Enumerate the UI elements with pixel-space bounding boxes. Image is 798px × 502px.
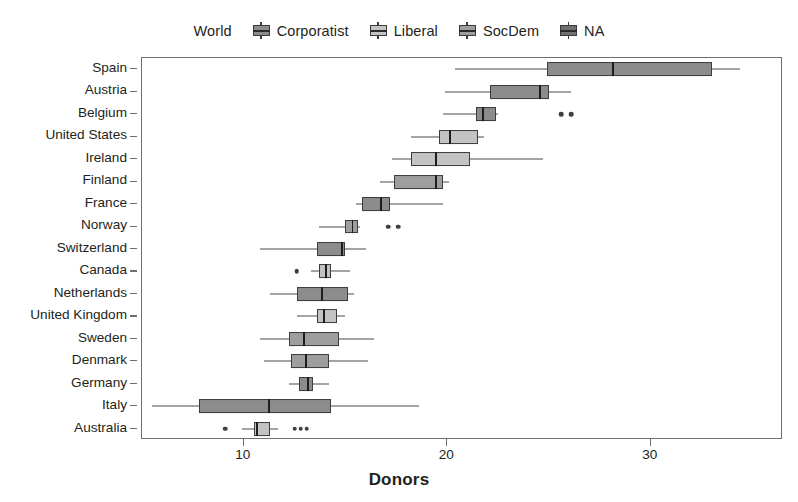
boxplot-row <box>142 58 781 80</box>
y-axis: SpainAustriaBelgiumUnited StatesIrelandF… <box>0 57 137 439</box>
median-line <box>612 62 614 76</box>
outlier-point <box>292 426 297 431</box>
legend-median <box>370 30 387 32</box>
box-germany <box>299 377 313 391</box>
boxplot-row <box>142 395 781 417</box>
outlier-point <box>294 269 299 274</box>
y-tick-label-finland: Finland <box>82 169 127 191</box>
median-line <box>380 197 382 211</box>
legend-entry-liberal[interactable]: Liberal <box>369 22 438 39</box>
x-tick-label-10: 10 <box>235 447 250 462</box>
median-line <box>449 130 451 144</box>
y-tick-mark <box>130 113 137 114</box>
y-tick-mark <box>130 203 137 204</box>
legend-label: World <box>194 23 232 39</box>
legend-entry-corporatist[interactable]: Corporatist <box>252 22 349 39</box>
legend-entry-na[interactable]: NA <box>559 22 604 39</box>
median-line <box>321 287 323 301</box>
y-tick-mark <box>130 68 137 69</box>
median-line <box>323 309 325 323</box>
y-tick-label-netherlands: Netherlands <box>54 282 127 304</box>
boxplot-row <box>142 418 781 440</box>
y-tick-label-austria: Austria <box>85 79 127 101</box>
y-tick-mark <box>130 383 137 384</box>
y-tick-mark <box>130 428 137 429</box>
whisker-line <box>260 248 366 249</box>
box-italy <box>199 399 331 413</box>
plot-area <box>142 58 781 438</box>
legend-median <box>253 30 270 32</box>
outlier-point <box>298 426 303 431</box>
y-tick-mark <box>130 226 137 227</box>
median-line <box>539 85 541 99</box>
x-tick-mark <box>243 439 244 446</box>
boxplot-figure: WorldCorporatistLiberalSocDemNA SpainAus… <box>0 0 798 502</box>
boxplot-row <box>142 193 781 215</box>
median-line <box>307 377 309 391</box>
box-sweden <box>289 332 340 346</box>
legend-boxplot-icon <box>458 22 477 39</box>
median-line <box>303 332 305 346</box>
y-tick-mark <box>130 293 137 294</box>
y-tick-mark <box>130 248 137 249</box>
median-line <box>325 265 327 279</box>
y-tick-label-spain: Spain <box>92 57 127 79</box>
chart-legend: WorldCorporatistLiberalSocDemNA <box>0 22 798 39</box>
median-line <box>435 175 437 189</box>
median-line <box>341 242 343 256</box>
outlier-point <box>386 224 391 229</box>
x-axis: 102030 <box>141 439 782 469</box>
legend-entry-socdem[interactable]: SocDem <box>458 22 539 39</box>
x-tick-mark <box>650 439 651 446</box>
boxplot-row <box>142 148 781 170</box>
legend-label: Corporatist <box>277 23 349 39</box>
outlier-point <box>569 112 574 117</box>
outlier-point <box>223 426 228 431</box>
legend-label: Liberal <box>394 23 438 39</box>
y-tick-mark <box>130 136 137 137</box>
legend-boxplot-icon <box>252 22 271 39</box>
legend-median <box>459 30 476 32</box>
legend-boxplot-icon <box>559 22 578 39</box>
median-line <box>305 354 307 368</box>
box-belgium <box>476 107 496 121</box>
boxplot-row <box>142 328 781 350</box>
boxplot-row <box>142 260 781 282</box>
y-tick-label-australia: Australia <box>74 417 127 439</box>
x-tick-label-30: 30 <box>642 447 657 462</box>
y-tick-label-belgium: Belgium <box>78 102 127 124</box>
y-tick-label-italy: Italy <box>102 394 127 416</box>
box-spain <box>547 62 712 76</box>
median-line <box>256 422 258 436</box>
y-tick-label-denmark: Denmark <box>72 349 127 371</box>
median-line <box>268 399 270 413</box>
y-tick-mark <box>130 270 137 271</box>
y-tick-mark <box>130 338 137 339</box>
boxplot-row <box>142 350 781 372</box>
outlier-point <box>305 426 310 431</box>
median-line <box>352 220 354 234</box>
legend-label: NA <box>584 23 604 39</box>
legend-boxplot-icon <box>369 22 388 39</box>
boxplot-row <box>142 170 781 192</box>
legend-label: SocDem <box>483 23 539 39</box>
boxplot-row <box>142 238 781 260</box>
y-tick-mark <box>130 360 137 361</box>
boxplot-row <box>142 80 781 102</box>
boxplot-row <box>142 373 781 395</box>
legend-entry-world[interactable]: World <box>194 23 232 39</box>
boxplot-row <box>142 125 781 147</box>
box-united-kingdom <box>317 309 337 323</box>
x-tick-mark <box>446 439 447 446</box>
median-line <box>435 152 437 166</box>
box-united-states <box>439 130 478 144</box>
box-france <box>362 197 390 211</box>
y-tick-label-canada: Canada <box>79 259 127 281</box>
y-tick-mark <box>130 91 137 92</box>
y-tick-mark <box>130 405 137 406</box>
median-line <box>482 107 484 121</box>
y-tick-mark <box>130 181 137 182</box>
boxplot-row <box>142 215 781 237</box>
legend-median <box>560 30 577 32</box>
y-tick-label-switzerland: Switzerland <box>57 237 127 259</box>
